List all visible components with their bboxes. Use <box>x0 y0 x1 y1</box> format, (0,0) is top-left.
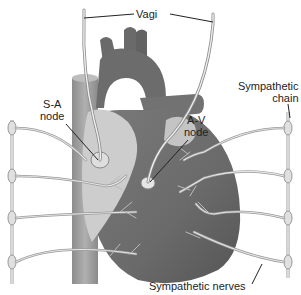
label-sa-node-line1: S-A <box>40 98 64 110</box>
label-av-node-line1: A-V <box>184 114 208 126</box>
label-sympathetic-chain: Sympathetic chain <box>238 80 299 104</box>
sympathetic-chain-left <box>8 120 16 284</box>
label-sa-node-line2: node <box>40 110 64 122</box>
label-av-node-line2: node <box>184 126 208 138</box>
label-sa-node: S-A node <box>40 98 64 122</box>
label-av-node: A-V node <box>184 114 208 138</box>
great-vessels <box>96 27 204 118</box>
label-vagi: Vagi <box>136 8 157 20</box>
label-symp-chain-line2: chain <box>238 92 299 104</box>
label-symp-chain-line1: Sympathetic <box>238 80 299 92</box>
diagram-artwork <box>0 0 301 295</box>
label-sympathetic-nerves: Sympathetic nerves <box>149 280 246 292</box>
sympathetic-chain-right <box>284 112 292 278</box>
heart-innervation-diagram: Vagi S-A node A-V node Sympathetic chain… <box>0 0 301 295</box>
